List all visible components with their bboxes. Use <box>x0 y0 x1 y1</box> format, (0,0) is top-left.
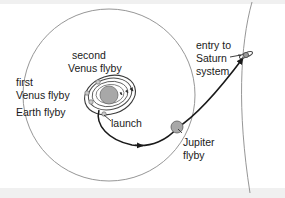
label-second-venus-flyby-line2: Venus flyby <box>68 62 122 74</box>
first-venus-flyby-marker <box>89 100 93 104</box>
label-first-venus-flyby-line2: Venus flyby <box>16 89 70 101</box>
diagram-canvas: second Venus flyby first Venus flyby Ear… <box>0 0 285 198</box>
earth-flyby-marker <box>85 91 89 95</box>
label-entry-to-saturn-line2: Saturn <box>196 52 227 64</box>
inner-loop-arrow-3 <box>120 92 122 95</box>
label-second-venus-flyby-line1: second <box>72 49 106 61</box>
launch-leader-line <box>104 115 111 121</box>
label-entry-to-saturn-line1: entry to <box>196 39 231 51</box>
saturn-orbit-arc <box>242 2 252 193</box>
trajectory-diagram-figure: second Venus flyby first Venus flyby Ear… <box>0 0 285 198</box>
second-venus-flyby-marker <box>96 80 100 84</box>
label-entry-to-saturn-line3: system <box>196 65 230 77</box>
label-launch: launch <box>111 117 142 129</box>
sun-icon <box>100 86 118 104</box>
label-first-venus-flyby-line1: first <box>16 76 33 88</box>
label-jupiter-flyby-line1: Jupiter <box>183 136 215 148</box>
label-jupiter-flyby-line2: flyby <box>183 149 205 161</box>
label-earth-flyby: Earth flyby <box>16 106 66 118</box>
planet-icon-jupiter <box>171 121 183 133</box>
